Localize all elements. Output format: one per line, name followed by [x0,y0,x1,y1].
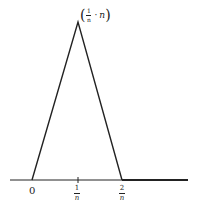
peak-fraction: 1 n [86,8,91,23]
peak-label: ( 1 n · n ) [80,7,111,23]
tent-function-plot [0,0,199,206]
tick-label-zero: 0 [29,186,35,196]
triangle-graph [32,22,122,180]
tick-label-two-over-n: 2 n [119,185,125,202]
tick-label-one-over-n: 1 n [74,185,80,202]
